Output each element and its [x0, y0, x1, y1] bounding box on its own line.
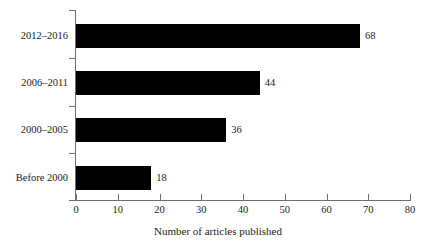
x-axis-tick-label: 20 [140, 203, 180, 217]
category-label: Before 2000 [0, 166, 68, 190]
bar-value-label: 36 [231, 118, 242, 142]
bar-chart: 2012–2016 2006–2011 2000–2005 Before 200… [0, 0, 436, 249]
x-axis-tick [201, 194, 202, 200]
x-axis-tick [368, 194, 369, 200]
y-axis-tick [69, 106, 75, 107]
x-axis-tick [410, 194, 411, 200]
x-axis-tick [327, 194, 328, 200]
category-label: 2000–2005 [0, 118, 68, 142]
category-label: 2006–2011 [0, 71, 68, 95]
y-axis-tick [69, 58, 75, 59]
x-axis-tick-label: 0 [56, 203, 96, 217]
x-axis-tick [76, 194, 77, 200]
x-axis-tick-label: 70 [348, 203, 388, 217]
bar[interactable] [76, 166, 151, 190]
x-axis-tick-label: 80 [390, 203, 430, 217]
y-axis-tick [69, 10, 75, 11]
y-axis-tick [69, 153, 75, 154]
x-axis-tick-label: 30 [181, 203, 221, 217]
x-axis-tick-label: 40 [223, 203, 263, 217]
y-axis-tick [69, 200, 75, 201]
plot-area: 68 44 36 18 [76, 10, 410, 200]
x-axis-line [75, 200, 411, 201]
x-axis-tick-label: 60 [307, 203, 347, 217]
x-axis-tick [160, 194, 161, 200]
x-axis-tick [243, 194, 244, 200]
bar-value-label: 68 [365, 24, 376, 48]
x-axis-tick-label: 10 [98, 203, 138, 217]
x-axis-tick-label: 50 [265, 203, 305, 217]
bar-value-label: 44 [265, 71, 276, 95]
category-label: 2012–2016 [0, 24, 68, 48]
bar-value-label: 18 [156, 166, 167, 190]
x-axis-title: Number of articles published [0, 224, 436, 238]
bar[interactable] [76, 71, 260, 95]
x-axis-tick [118, 194, 119, 200]
bar[interactable] [76, 24, 360, 48]
x-axis-tick [285, 194, 286, 200]
bar[interactable] [76, 118, 226, 142]
